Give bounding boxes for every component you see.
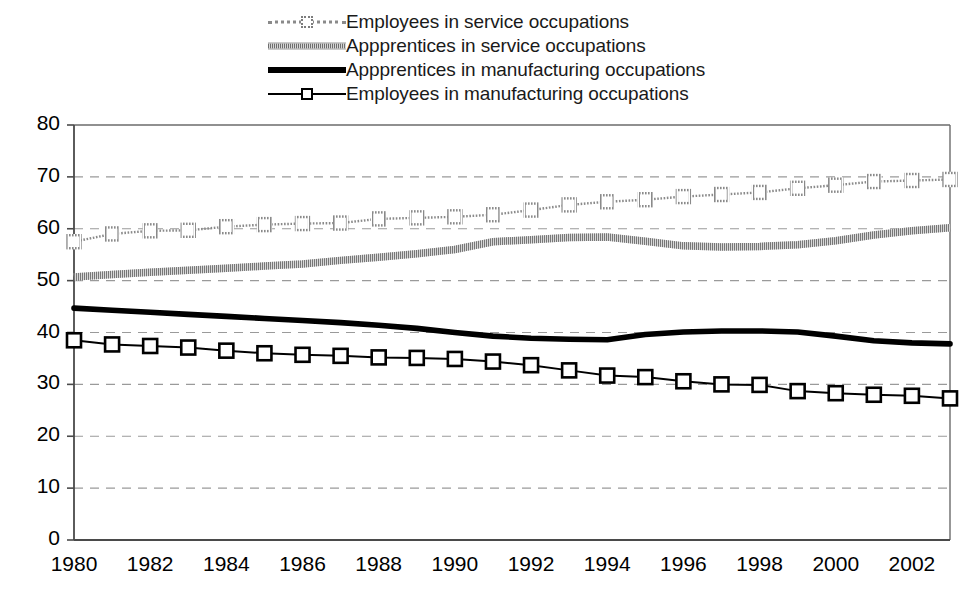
data-point-employees-service bbox=[753, 186, 766, 199]
data-point-employees-manufacturing bbox=[67, 333, 81, 347]
data-point-employees-manufacturing bbox=[905, 389, 919, 403]
data-point-employees-service bbox=[677, 190, 690, 203]
y-axis-label: 80 bbox=[12, 111, 60, 135]
y-axis-label: 70 bbox=[12, 163, 60, 187]
x-axis-label: 1984 bbox=[186, 552, 266, 576]
x-axis-label: 1994 bbox=[567, 552, 647, 576]
data-point-employees-manufacturing bbox=[143, 339, 157, 353]
data-point-employees-service bbox=[867, 175, 880, 188]
x-axis-label: 2002 bbox=[872, 552, 952, 576]
data-point-employees-service bbox=[220, 220, 233, 233]
y-axis-label: 60 bbox=[12, 215, 60, 239]
data-point-employees-manufacturing bbox=[829, 386, 843, 400]
series-line-apprentices-service-shade bbox=[74, 228, 950, 277]
data-point-employees-manufacturing bbox=[524, 358, 538, 372]
data-point-employees-manufacturing bbox=[943, 391, 957, 405]
x-axis-label: 1998 bbox=[720, 552, 800, 576]
data-point-employees-manufacturing bbox=[410, 351, 424, 365]
data-point-employees-service bbox=[410, 211, 423, 224]
x-axis-label: 1996 bbox=[643, 552, 723, 576]
data-point-employees-service bbox=[182, 224, 195, 237]
data-point-employees-manufacturing bbox=[181, 341, 195, 355]
data-point-employees-manufacturing bbox=[791, 384, 805, 398]
plot-area: 8070605040302010019801982198419861988199… bbox=[0, 0, 977, 601]
data-point-employees-service bbox=[296, 217, 309, 230]
data-point-employees-service bbox=[486, 208, 499, 221]
y-axis-label: 30 bbox=[12, 370, 60, 394]
y-axis-label: 50 bbox=[12, 267, 60, 291]
data-point-employees-service bbox=[68, 235, 81, 248]
series-line-apprentices-manufacturing bbox=[74, 308, 950, 344]
data-point-employees-manufacturing bbox=[867, 388, 881, 402]
x-axis-label: 1986 bbox=[263, 552, 343, 576]
data-point-employees-manufacturing bbox=[562, 363, 576, 377]
data-point-employees-manufacturing bbox=[105, 337, 119, 351]
data-point-employees-service bbox=[563, 198, 576, 211]
data-point-employees-service bbox=[525, 204, 538, 217]
data-point-employees-service bbox=[601, 195, 614, 208]
data-point-employees-service bbox=[106, 227, 119, 240]
data-point-employees-service bbox=[791, 182, 804, 195]
data-point-employees-service bbox=[144, 224, 157, 237]
data-point-employees-manufacturing bbox=[257, 346, 271, 360]
series-line-employees-manufacturing bbox=[74, 340, 950, 398]
x-axis-label: 1980 bbox=[34, 552, 114, 576]
data-point-employees-service bbox=[829, 179, 842, 192]
data-point-employees-manufacturing bbox=[714, 377, 728, 391]
data-point-employees-manufacturing bbox=[600, 369, 614, 383]
data-point-employees-service bbox=[448, 210, 461, 223]
y-axis-label: 40 bbox=[12, 319, 60, 343]
data-point-employees-service bbox=[715, 188, 728, 201]
data-point-employees-service bbox=[944, 173, 957, 186]
y-axis-label: 0 bbox=[12, 526, 60, 550]
data-point-employees-manufacturing bbox=[753, 378, 767, 392]
data-point-employees-manufacturing bbox=[676, 374, 690, 388]
data-point-employees-service bbox=[334, 217, 347, 230]
data-point-employees-service bbox=[905, 174, 918, 187]
y-axis-label: 20 bbox=[12, 422, 60, 446]
x-axis-label: 1982 bbox=[110, 552, 190, 576]
y-axis-label: 10 bbox=[12, 474, 60, 498]
x-axis-label: 1992 bbox=[491, 552, 571, 576]
data-point-employees-manufacturing bbox=[448, 352, 462, 366]
data-point-employees-manufacturing bbox=[372, 350, 386, 364]
data-point-employees-manufacturing bbox=[334, 349, 348, 363]
series-line-employees-service bbox=[74, 179, 950, 241]
chart-canvas bbox=[0, 0, 977, 601]
x-axis-label: 1988 bbox=[339, 552, 419, 576]
data-point-employees-service bbox=[639, 193, 652, 206]
data-point-employees-manufacturing bbox=[296, 348, 310, 362]
data-point-employees-service bbox=[258, 218, 271, 231]
x-axis-label: 1990 bbox=[415, 552, 495, 576]
data-point-employees-service bbox=[372, 212, 385, 225]
chart-root: Employees in service occupations Apppren… bbox=[0, 0, 977, 601]
data-point-employees-manufacturing bbox=[219, 344, 233, 358]
data-point-employees-manufacturing bbox=[486, 355, 500, 369]
x-axis-label: 2000 bbox=[796, 552, 876, 576]
data-point-employees-manufacturing bbox=[638, 370, 652, 384]
